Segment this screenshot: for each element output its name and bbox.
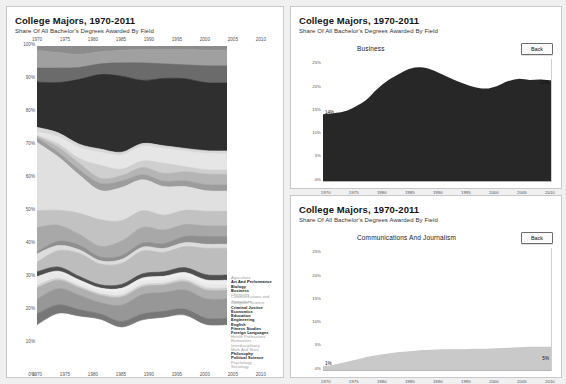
left-x-tick-top: 1975: [60, 37, 70, 42]
left-x-tick-bottom: 1980: [88, 372, 98, 377]
right-column: College Majors, 1970-2011 Share Of All B…: [290, 6, 562, 378]
comms-chart-subtitle: Share Of All Bachelor's Degrees Awarded …: [299, 216, 555, 224]
left-x-axis-bottom: 197019751980198519901995200020052010: [37, 372, 279, 382]
y-tick: 20%: [312, 272, 321, 277]
y-tick: 15%: [312, 295, 321, 300]
left-y-tick: 70%: [26, 141, 35, 146]
left-y-tick: 20%: [26, 306, 35, 311]
left-y-tick: 10%: [26, 339, 35, 344]
x-tick: 2010: [545, 379, 555, 384]
business-area-svg[interactable]: [323, 61, 551, 182]
y-tick: 25%: [312, 60, 321, 65]
stacked-area-svg[interactable]: [37, 46, 227, 370]
left-x-tick-top: 1990: [144, 37, 154, 42]
left-chart-title: College Majors, 1970-2011: [15, 15, 277, 26]
left-x-tick-top: 2000: [200, 37, 210, 42]
left-legend[interactable]: AgricultureArt And PerformanceBiologyBus…: [229, 46, 279, 370]
dashboard-root: College Majors, 1970-2011 Share Of All B…: [0, 0, 566, 384]
communications-panel: College Majors, 1970-2011 Share Of All B…: [290, 195, 562, 378]
x-tick: 1975: [349, 379, 359, 384]
business-start-label: 14%: [325, 110, 334, 115]
comms-start-label: 1%: [325, 361, 332, 366]
left-x-tick-top: 2010: [256, 37, 266, 42]
left-x-tick-top: 1980: [88, 37, 98, 42]
y-tick: 10%: [312, 319, 321, 324]
comms-header-row: Communications And Journalism Back: [299, 224, 555, 246]
x-tick: 2000: [489, 379, 499, 384]
business-plot: 25%20%15%10%5%0% 19701975198019851990199…: [299, 57, 557, 192]
business-baseline: [323, 181, 551, 182]
legend-item[interactable]: Sociology: [231, 365, 249, 369]
left-x-tick-bottom: 2010: [256, 372, 266, 377]
left-x-tick-top: 2005: [228, 37, 238, 42]
left-x-tick-top: 1985: [116, 37, 126, 42]
x-tick: 1985: [405, 379, 415, 384]
left-y-tick: 40%: [26, 240, 35, 245]
business-end-label: 21%: [540, 80, 549, 85]
x-tick: 1995: [461, 379, 471, 384]
comms-end-label: 5%: [542, 356, 549, 361]
x-tick: 2005: [517, 379, 527, 384]
left-y-axis: 100%90%80%70%60%50%40%30%20%10%0%: [15, 44, 37, 374]
y-tick: 10%: [312, 130, 321, 135]
stacked-area-panel: College Majors, 1970-2011 Share Of All B…: [6, 6, 284, 378]
left-y-tick: 60%: [26, 174, 35, 179]
y-tick: 0%: [315, 176, 321, 181]
y-tick: 20%: [312, 83, 321, 88]
left-chart-subtitle: Share Of All Bachelor's Degrees Awarded …: [15, 27, 277, 35]
business-header-row: Business Back: [299, 35, 555, 57]
left-x-tick-top: 1995: [172, 37, 182, 42]
x-tick: 1990: [433, 379, 443, 384]
comms-baseline: [323, 370, 551, 371]
left-x-tick-bottom: 2000: [200, 372, 210, 377]
left-y-tick: 50%: [26, 207, 35, 212]
business-series-name: Business: [357, 45, 385, 52]
x-tick: 1980: [377, 379, 387, 384]
business-chart-subtitle: Share Of All Bachelor's Degrees Awarded …: [299, 27, 555, 35]
left-y-tick: 80%: [26, 108, 35, 113]
y-tick: 15%: [312, 106, 321, 111]
comms-plot: 25%20%15%10%5%0% 19701975198019851990199…: [299, 246, 557, 381]
left-y-tick: 30%: [26, 273, 35, 278]
left-y-tick: 100%: [23, 42, 35, 47]
x-tick: 1970: [321, 379, 331, 384]
business-panel: College Majors, 1970-2011 Share Of All B…: [290, 6, 562, 189]
left-plot: 100%90%80%70%60%50%40%30%20%10%0% 197019…: [15, 44, 279, 374]
y-tick: 25%: [312, 249, 321, 254]
business-chart-title: College Majors, 1970-2011: [299, 15, 555, 26]
left-x-tick-bottom: 1975: [60, 372, 70, 377]
stacked-area-plot[interactable]: [37, 46, 227, 370]
comms-chart-title: College Majors, 1970-2011: [299, 204, 555, 215]
area-fill[interactable]: [323, 67, 551, 182]
comms-y-axis: 25%20%15%10%5%0%: [299, 246, 323, 381]
comms-area-svg[interactable]: [323, 250, 551, 371]
left-x-tick-bottom: 1985: [116, 372, 126, 377]
left-y-tick: 90%: [26, 75, 35, 80]
business-y-axis: 25%20%15%10%5%0%: [299, 57, 323, 192]
left-x-tick-top: 1970: [32, 37, 42, 42]
left-x-tick-bottom: 1995: [172, 372, 182, 377]
left-x-tick-bottom: 1970: [32, 372, 42, 377]
left-x-tick-bottom: 1990: [144, 372, 154, 377]
business-back-button[interactable]: Back: [521, 43, 553, 55]
y-tick: 0%: [315, 365, 321, 370]
comms-area-plot[interactable]: [323, 250, 551, 371]
left-x-tick-bottom: 2005: [228, 372, 238, 377]
comms-back-button[interactable]: Back: [521, 232, 553, 244]
comms-right-rule: [551, 248, 552, 371]
y-tick: 5%: [315, 153, 321, 158]
y-tick: 5%: [315, 342, 321, 347]
comms-x-axis: 197019751980198519901995200020052010: [321, 379, 557, 384]
business-area-plot[interactable]: [323, 61, 551, 182]
business-right-rule: [551, 59, 552, 182]
comms-series-name: Communications And Journalism: [357, 234, 456, 241]
area-fill[interactable]: [323, 347, 551, 371]
